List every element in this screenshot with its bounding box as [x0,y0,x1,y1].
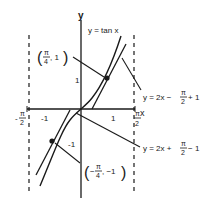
y-axis-label: y [78,10,84,21]
point-lower-marker [49,138,54,143]
tan-graph-diagram: y x -1 1 1 -1 - π 2 π 2 y = tan x ( π 4 … [0,0,207,203]
y-tick-1: 1 [75,76,80,85]
svg-text:π: π [135,110,140,117]
diagram-canvas: y x -1 1 1 -1 - π 2 π 2 y = tan x ( π 4 … [0,0,207,203]
svg-text:y = 2x −: y = 2x − [143,93,172,102]
svg-text:π: π [181,140,186,147]
svg-text:-: - [15,114,18,123]
svg-text:π: π [181,89,186,96]
svg-text:+ 1: + 1 [188,93,200,102]
asymptote-left-label: - π 2 [15,110,26,126]
svg-text:2: 2 [181,98,185,105]
svg-text:4: 4 [96,172,100,179]
svg-text:−: − [90,167,95,176]
svg-text:2: 2 [20,119,24,126]
leader-point-upper [73,57,104,77]
x-tick-1: 1 [111,114,116,123]
svg-text:, 1: , 1 [50,53,59,62]
x-tick-neg1: -1 [41,114,49,123]
point-lower-label: ( − π 4 , −1 ) [84,163,126,181]
svg-text:2: 2 [135,120,139,127]
point-upper-marker [104,75,109,80]
svg-text:π: π [44,49,49,56]
svg-text:(: ( [37,49,43,66]
svg-text:2: 2 [181,149,185,156]
svg-text:π: π [20,110,25,117]
tangent-upper-label: y = 2x − π 2 + 1 [143,89,200,105]
leader-tangent-lower [76,113,140,147]
svg-text:− 1: − 1 [188,144,200,153]
curve-label: y = tan x [88,26,118,35]
svg-text:4: 4 [44,58,48,65]
point-upper-label: ( π 4 , 1 ) [37,49,68,66]
svg-text:y = 2x +: y = 2x + [143,144,172,153]
svg-text:): ) [63,49,68,66]
svg-text:, −1: , −1 [102,167,116,176]
svg-text:): ) [121,164,126,181]
leader-tangent-upper [122,58,141,90]
tangent-lower-label: y = 2x + π 2 − 1 [143,140,200,156]
y-tick-neg1: -1 [68,140,76,149]
svg-text:π: π [96,163,101,170]
x-axis-label: x [140,108,145,118]
